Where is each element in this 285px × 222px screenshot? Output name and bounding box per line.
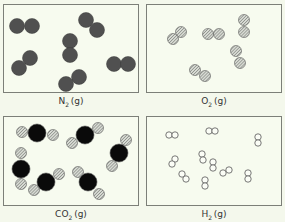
label-co2: CO2 (g)	[3, 209, 139, 221]
subscript: 2	[208, 214, 212, 221]
subscript: 2	[68, 214, 72, 221]
subscript: 2	[208, 101, 212, 108]
molecule-diagram	[0, 0, 285, 222]
state: (g)	[214, 96, 227, 106]
state: (g)	[71, 96, 84, 106]
h2-molecules	[166, 128, 261, 189]
o2-molecules	[168, 15, 250, 82]
label-o2: O2 (g)	[146, 96, 282, 108]
label-n2: N2 (g)	[3, 96, 139, 108]
label-h2: H2 (g)	[146, 209, 282, 221]
state: (g)	[214, 209, 227, 219]
n2-molecules	[10, 13, 136, 92]
formula: CO	[55, 209, 68, 219]
co2-molecules	[12, 123, 132, 200]
subscript: 2	[65, 101, 69, 108]
state: (g)	[74, 209, 87, 219]
